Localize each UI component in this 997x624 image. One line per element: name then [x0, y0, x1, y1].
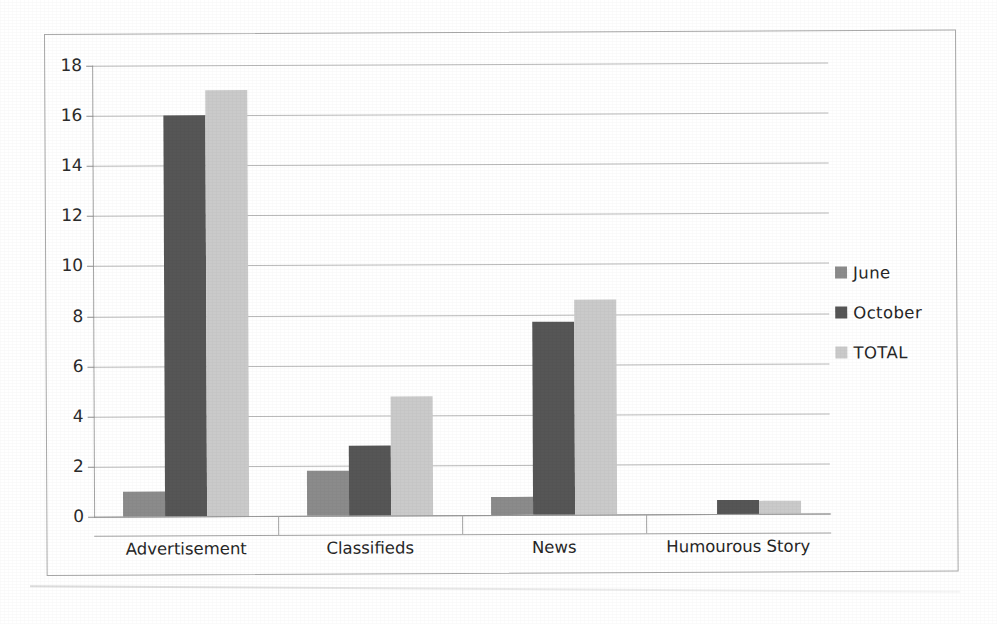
y-tick-mark-12	[87, 216, 94, 217]
x-label-humourous-story: Humourous Story	[646, 537, 830, 557]
y-tick-label-12: 12	[49, 207, 83, 224]
y-tick-label-4: 4	[50, 408, 84, 425]
legend-label-june: June	[853, 263, 891, 282]
bar-advertisement-total	[205, 90, 249, 516]
y-tick-mark-0	[88, 517, 95, 518]
total-swatch	[835, 346, 847, 358]
y-tick-mark-10	[87, 266, 94, 267]
y-tick-label-18: 18	[48, 57, 82, 74]
x-label-advertisement: Advertisement	[94, 539, 278, 559]
x-label-news: News	[462, 537, 646, 557]
y-tick-label-8: 8	[49, 307, 83, 324]
y-tick-label-6: 6	[49, 357, 83, 374]
bar-classifieds-october	[349, 445, 391, 515]
x-label-classifieds: Classifieds	[278, 538, 462, 558]
legend-item-june[interactable]: June	[835, 252, 953, 293]
y-axis-labels: 024681012141618	[44, 34, 84, 576]
bar-advertisement-october	[163, 115, 207, 516]
y-tick-label-14: 14	[49, 157, 83, 174]
bar-classifieds-june	[307, 471, 349, 516]
plot-area	[92, 63, 830, 517]
chart-legend: JuneOctoberTOTAL	[835, 252, 954, 373]
x-axis-ticks	[44, 30, 956, 34]
october-swatch	[835, 306, 847, 318]
legend-item-october[interactable]: October	[835, 292, 953, 333]
legend-label-total: TOTAL	[853, 343, 907, 362]
chart-canvas: 024681012141618 AdvertisementClassifieds…	[44, 30, 958, 576]
y-tick-mark-6	[87, 366, 94, 367]
y-tick-mark-18	[86, 66, 93, 67]
scanned-page: 024681012141618 AdvertisementClassifieds…	[0, 0, 997, 624]
y-tick-label-16: 16	[48, 107, 82, 124]
legend-label-october: October	[853, 303, 922, 322]
gridlines	[92, 63, 828, 66]
bar-news-october	[532, 322, 575, 515]
bar-news-total	[574, 299, 617, 515]
bar-humourous-story-october	[717, 500, 759, 514]
y-tick-label-10: 10	[49, 257, 83, 274]
y-tick-mark-16	[86, 116, 93, 117]
y-tick-mark-14	[87, 166, 94, 167]
x-tick-mark-2	[462, 515, 463, 534]
bar-classifieds-total	[391, 396, 434, 515]
x-tick-mark-1	[278, 516, 279, 535]
y-tick-mark-4	[88, 417, 95, 418]
y-tick-mark-2	[88, 467, 95, 468]
bar-humourous-story-total	[759, 501, 801, 514]
gridline-18	[92, 63, 828, 67]
y-tick-label-2: 2	[50, 458, 84, 475]
y-tick-label-0: 0	[50, 508, 84, 525]
y-tick-mark-8	[87, 316, 94, 317]
bar-news-june	[491, 497, 533, 515]
bar-advertisement-june	[123, 491, 165, 516]
june-swatch	[835, 266, 847, 278]
scan-artifact	[30, 585, 960, 593]
x-axis-category-labels: AdvertisementClassifiedsNewsHumourous St…	[44, 30, 956, 34]
legend-item-total[interactable]: TOTAL	[835, 332, 953, 373]
x-tick-mark-3	[646, 514, 647, 533]
